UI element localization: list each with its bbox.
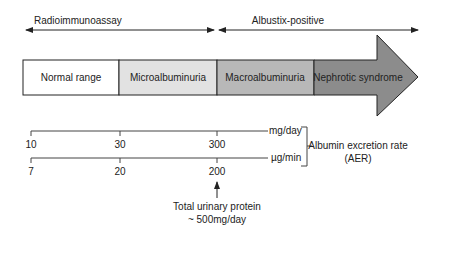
radioimmunoassay-range: Radioimmunoassay xyxy=(26,15,214,30)
ug-min-scale: µg/min 7 20 200 xyxy=(28,152,301,177)
ug-min-unit: µg/min xyxy=(271,152,301,163)
stage-nephrotic-label: Nephrotic syndrome xyxy=(313,72,403,83)
ug-min-tick-200: 200 xyxy=(209,166,226,177)
stage-micro-label: Microalbuminuria xyxy=(130,72,207,83)
stage-macro-label: Macroalbuminuria xyxy=(225,72,305,83)
aer-bracket: Albumin excretion rate (AER) xyxy=(301,127,408,166)
mg-day-scale: mg/day 10 30 300 xyxy=(25,125,301,150)
ug-min-tick-20: 20 xyxy=(114,166,126,177)
albustix-range: Albustix-positive xyxy=(219,15,418,30)
annotation-line2: ~ 500mg/day xyxy=(188,214,246,225)
aer-label-line1: Albumin excretion rate xyxy=(308,140,408,151)
total-protein-annotation: Total urinary protein ~ 500mg/day xyxy=(173,182,261,225)
radioimmunoassay-label: Radioimmunoassay xyxy=(34,15,122,26)
ug-min-tick-7: 7 xyxy=(28,166,34,177)
mg-day-tick-10: 10 xyxy=(25,139,37,150)
annotation-line1: Total urinary protein xyxy=(173,201,261,212)
albustix-label: Albustix-positive xyxy=(252,15,325,26)
stage-bar: Normal range Microalbuminuria Macroalbum… xyxy=(23,35,418,116)
mg-day-tick-30: 30 xyxy=(114,139,126,150)
albuminuria-diagram: Radioimmunoassay Albustix-positive Norma… xyxy=(0,0,451,259)
mg-day-unit: mg/day xyxy=(269,125,302,136)
aer-label-line2: (AER) xyxy=(344,153,371,164)
stage-normal-label: Normal range xyxy=(41,72,102,83)
mg-day-tick-300: 300 xyxy=(209,139,226,150)
